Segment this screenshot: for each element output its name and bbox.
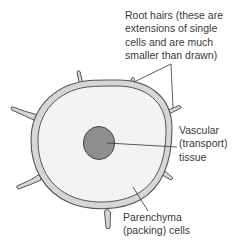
label-parenchyma-cells: Parenchyma (packing) cells <box>123 211 190 238</box>
label-vascular-tissue: Vascular (transport) tissue <box>179 124 227 164</box>
label-root-hairs: Root hairs (these are extensions of sing… <box>125 9 223 63</box>
root-hair-bottom <box>105 210 111 229</box>
root-hair-lower-left <box>17 174 41 189</box>
